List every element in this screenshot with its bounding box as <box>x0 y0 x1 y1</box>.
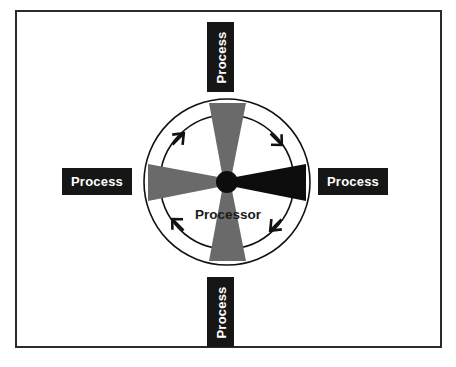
processor-caption: Processor <box>186 208 270 222</box>
rotation-arrow-lower-right-icon <box>270 219 282 231</box>
processor-hub <box>216 171 238 193</box>
process-label-top[interactable]: Process <box>207 22 234 92</box>
rotation-arrow-upper-right-icon <box>271 134 282 146</box>
process-label-left[interactable]: Process <box>62 168 132 195</box>
rotation-arrow-upper-left-icon <box>172 133 184 145</box>
diagram-canvas: Process Process Process Process Processo… <box>0 0 456 367</box>
blade-top-icon <box>209 103 246 176</box>
process-label-bottom-text: Process <box>214 286 227 338</box>
process-label-bottom[interactable]: Process <box>207 277 234 347</box>
blade-bottom-icon <box>209 188 246 261</box>
rotation-arrow-lower-left-icon <box>172 219 183 231</box>
process-label-right[interactable]: Process <box>318 168 388 195</box>
process-label-left-text: Process <box>71 175 123 188</box>
blade-left-icon <box>148 164 221 201</box>
process-label-right-text: Process <box>327 175 379 188</box>
blade-right-icon <box>233 164 306 201</box>
process-label-top-text: Process <box>214 31 227 83</box>
